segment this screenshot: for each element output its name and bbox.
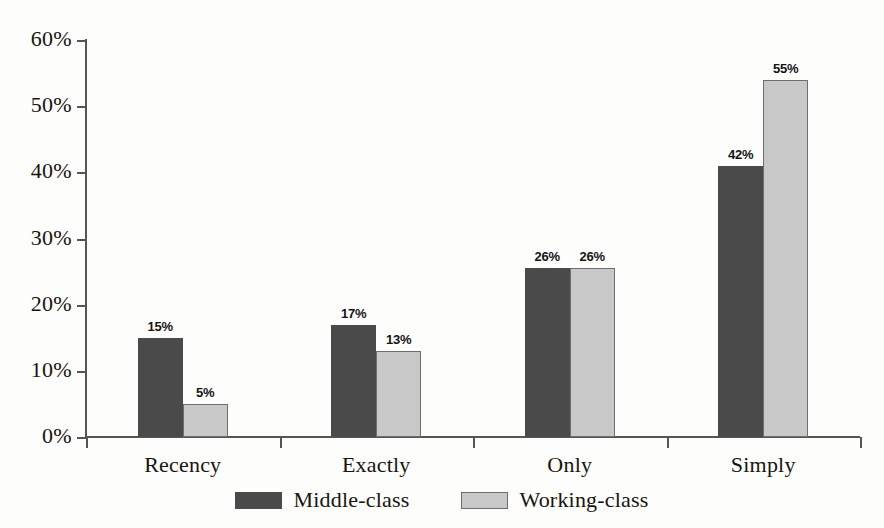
bar-value-label: 42% [728,147,753,162]
y-axis-tick-mark [77,305,86,307]
y-axis-tick-label: 50% [31,92,72,118]
y-axis-tick-mark [77,371,86,373]
bar-chart: 15%5%17%13%26%26%42%55% 0%10%20%30%40%50… [0,0,884,528]
bar-value-label: 15% [148,319,173,334]
bar-value-label: 55% [773,61,798,76]
bar-value-label: 26% [535,249,560,264]
bar[interactable]: 42% [718,166,763,437]
x-axis-category-label: Exactly [342,452,411,478]
x-axis-tick-mark [473,437,475,448]
y-axis-tick-mark [77,106,86,108]
y-axis-tick-label: 10% [31,357,72,383]
bar[interactable]: 5% [183,404,228,437]
legend-label: Middle-class [293,487,409,513]
y-axis-tick-mark [77,172,86,174]
legend-swatch-working-class [461,492,508,509]
x-axis-tick-mark [280,437,282,448]
bar[interactable]: 26% [570,268,615,437]
y-axis-tick-label: 20% [31,291,72,317]
bar[interactable]: 15% [138,338,183,437]
bar-group: 42%55% [718,40,808,437]
bar-value-label: 17% [341,306,366,321]
legend-swatch-middle-class [235,492,282,509]
bar-value-label: 13% [386,332,411,347]
x-axis-category-label: Recency [144,452,221,478]
x-axis-category-label: Only [547,452,592,478]
x-axis-tick-mark [667,437,669,448]
y-axis-tick-mark [77,239,86,241]
plot-area: 15%5%17%13%26%26%42%55% [86,40,860,437]
bar[interactable]: 17% [331,325,376,437]
bar[interactable]: 13% [376,351,421,437]
y-axis-tick-label: 0% [42,423,72,449]
legend-item[interactable]: Middle-class [235,487,409,513]
y-axis-tick-label: 60% [31,26,72,52]
bar-value-label: 26% [580,249,605,264]
bar[interactable]: 26% [525,268,570,437]
y-axis-tick-mark [77,437,86,439]
x-axis-tick-mark [860,437,862,448]
x-axis-category-label: Simply [731,452,796,478]
bar-group: 17%13% [331,40,421,437]
chart-legend: Middle-classWorking-class [0,487,884,513]
legend-item[interactable]: Working-class [461,487,648,513]
bar-value-label: 5% [196,385,214,400]
y-axis-tick-mark [77,40,86,42]
y-axis-tick-label: 40% [31,158,72,184]
y-axis-tick-label: 30% [31,225,72,251]
legend-label: Working-class [519,487,648,513]
bar[interactable]: 55% [763,80,808,437]
bar-group: 15%5% [138,40,228,437]
bar-group: 26%26% [525,40,615,437]
x-axis-tick-mark [86,437,88,448]
